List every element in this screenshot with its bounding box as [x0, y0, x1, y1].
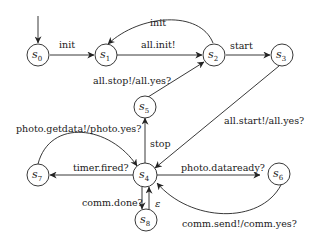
edge-labels: init all.init! init start all.stop!/all.… [16, 17, 304, 229]
label-s3-s4: all.start!/all.yes? [224, 115, 304, 126]
label-s2-s1: init [150, 17, 166, 28]
label-s7-s4: photo.getdata!/photo.yes? [16, 123, 141, 134]
state-s8: s8 [135, 209, 157, 231]
label-s5-s2: all.stop!/all.yes? [93, 75, 171, 86]
state-s4: s4 [133, 163, 157, 187]
state-s2: s2 [203, 44, 225, 66]
label-s4-s8: comm.done? [82, 197, 143, 208]
edge-s7-s4 [38, 132, 137, 166]
state-machine-diagram: init all.init! init start all.stop!/all.… [0, 0, 320, 245]
state-s7: s7 [27, 164, 49, 186]
label-s2-s3: start [230, 40, 253, 51]
label-s8-s4: ε [155, 198, 160, 209]
label-s0-s1: init [59, 39, 75, 50]
label-s1-s2: all.init! [141, 39, 176, 50]
state-s6: s6 [268, 163, 290, 185]
label-s4-s7: timer.fired? [73, 162, 129, 173]
state-s0: s0 [27, 44, 49, 66]
label-s4-s5: stop [150, 138, 171, 149]
state-s5: s5 [134, 96, 156, 118]
label-s6-s4: comm.send!/comm.yes? [182, 218, 297, 229]
label-s4-s6: photo.dataready? [181, 162, 265, 173]
state-s3: s3 [271, 44, 293, 66]
edge-s6-s4 [157, 183, 281, 214]
state-s1: s1 [95, 44, 117, 66]
